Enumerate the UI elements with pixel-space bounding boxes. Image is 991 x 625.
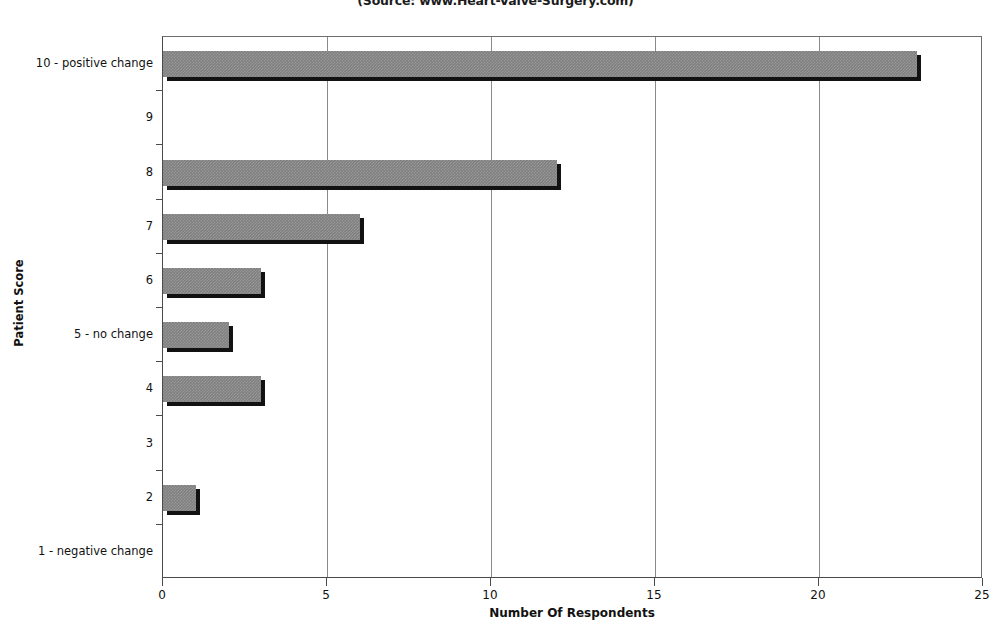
y-axis-tick-label: 3 bbox=[0, 436, 153, 450]
y-axis-tick-label: 6 bbox=[0, 273, 153, 287]
y-axis-tick-label: 5 - no change bbox=[0, 327, 153, 341]
gridline bbox=[655, 37, 656, 577]
x-axis-tick-label: 20 bbox=[788, 588, 848, 602]
y-axis-tick-label: 2 bbox=[0, 490, 153, 504]
x-axis-tick-label: 5 bbox=[296, 588, 356, 602]
y-axis-tick bbox=[156, 90, 163, 91]
x-axis-tick-label: 15 bbox=[624, 588, 684, 602]
y-axis-tick bbox=[156, 253, 163, 254]
x-axis-tick-label: 0 bbox=[132, 588, 192, 602]
bar bbox=[163, 214, 360, 240]
bar bbox=[163, 160, 557, 186]
y-axis-tick bbox=[156, 199, 163, 200]
bar bbox=[163, 268, 261, 294]
y-axis-tick bbox=[156, 415, 163, 416]
y-axis-tick bbox=[156, 524, 163, 525]
y-axis-tick-label: 9 bbox=[0, 110, 153, 124]
y-axis-tick-label: 1 - negative change bbox=[0, 544, 153, 558]
bar bbox=[163, 322, 229, 348]
x-axis-tick bbox=[490, 578, 491, 586]
bar bbox=[163, 51, 917, 77]
x-axis-tick bbox=[654, 578, 655, 586]
gridline bbox=[491, 37, 492, 577]
bar-chart: Patient Score Number Of Respondents 0510… bbox=[0, 0, 991, 625]
x-axis-tick-label: 10 bbox=[460, 588, 520, 602]
bar bbox=[163, 376, 261, 402]
gridline bbox=[327, 37, 328, 577]
y-axis-tick-label: 4 bbox=[0, 381, 153, 395]
y-axis-title: Patient Score bbox=[12, 243, 26, 363]
y-axis-tick-label: 10 - positive change bbox=[0, 56, 153, 70]
plot-area bbox=[162, 36, 982, 578]
y-axis-tick-label: 8 bbox=[0, 165, 153, 179]
x-axis-title: Number Of Respondents bbox=[162, 606, 982, 620]
y-axis-tick bbox=[156, 144, 163, 145]
x-axis-tick bbox=[326, 578, 327, 586]
x-axis-tick bbox=[982, 578, 983, 586]
y-axis-tick-label: 7 bbox=[0, 219, 153, 233]
x-axis-tick-label: 25 bbox=[952, 588, 991, 602]
gridline bbox=[819, 37, 820, 577]
x-axis-tick bbox=[162, 578, 163, 586]
bar bbox=[163, 485, 196, 511]
x-axis-tick bbox=[818, 578, 819, 586]
y-axis-tick bbox=[156, 307, 163, 308]
y-axis-tick bbox=[156, 470, 163, 471]
y-axis-tick bbox=[156, 361, 163, 362]
